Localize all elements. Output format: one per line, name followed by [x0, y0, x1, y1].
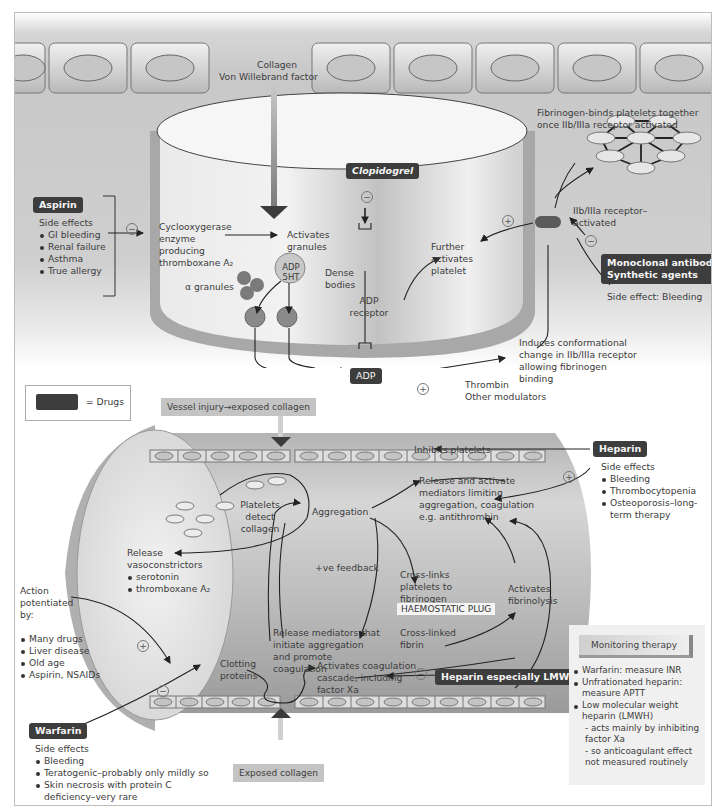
- activates-fibrinolysis-label: Activates fibrinolysis: [508, 583, 568, 607]
- warfarin-side-effects-list: Bleeding Teratogenic–probably only mildl…: [35, 755, 215, 803]
- exposed-collagen-label: Exposed collagen: [233, 764, 324, 782]
- drug-heparin[interactable]: Heparin: [593, 441, 647, 457]
- inhibits-platelets-label: Inhibits platelets: [414, 444, 490, 456]
- release-vasoconstrictors-label: Release vasoconstrictors: [127, 547, 217, 571]
- haemostatic-plug-label: HAEMOSTATIC PLUG: [397, 603, 495, 615]
- side-effect-item: Bleeding: [35, 755, 215, 767]
- side-effect-item: Thrombocytopenia: [601, 485, 701, 497]
- side-effect-item: Teratogenic–probably only mildly so: [35, 767, 215, 779]
- crosslinked-fibrin-label: Cross-linked fibrin: [400, 627, 460, 651]
- aggregation-label: Aggregation: [312, 506, 368, 518]
- monitoring-item: Warfarin: measure INR: [573, 665, 701, 677]
- ve-feedback-label: +ve feedback: [315, 562, 379, 574]
- vasoconstrictor-item: serotonin: [127, 571, 210, 583]
- monitoring-therapy-box: Monitoring therapy Warfarin: measure INR…: [569, 625, 705, 785]
- vasoconstrictor-item: thromboxane A₂: [127, 583, 210, 595]
- activate-symbol: +: [137, 640, 149, 652]
- clotting-proteins-label: Clotting proteins: [220, 658, 260, 682]
- activates-cascade-label: Activates coagulation cascade, including…: [317, 660, 422, 696]
- drug-warfarin[interactable]: Warfarin: [29, 723, 87, 739]
- drug-heparin-lmwh[interactable]: Heparin especially LMWH: [435, 669, 583, 685]
- side-effect-item: Osteoporosis–long-term therapy: [601, 497, 701, 521]
- potentiator-item: Old age: [20, 657, 100, 669]
- vasoconstrictor-list: serotonin thromboxane A₂: [127, 571, 210, 595]
- diagram-frame: Collagen Von Willebrand factor: [14, 12, 712, 806]
- crosslinks-label: Cross-links platelets to fibrinogen: [400, 569, 490, 605]
- inhibit-symbol: −: [415, 668, 427, 680]
- side-effect-item: Bleeding: [601, 473, 701, 485]
- potentiators-list: Many drugs Liver disease Old age Aspirin…: [20, 633, 100, 681]
- monitoring-subitem: - so anticoagulant effect not measured r…: [573, 746, 701, 769]
- vessel-injury-label: Vessel injury→exposed collagen: [161, 398, 316, 416]
- side-effect-item: Skin necrosis with protein C deficiency–…: [35, 779, 215, 803]
- monitoring-list: Warfarin: measure INR Unfrationated hepa…: [573, 665, 701, 769]
- monitoring-title: Monitoring therapy: [579, 635, 693, 658]
- potentiator-item: Liver disease: [20, 645, 100, 657]
- heparin-side-effects-list: Bleeding Thrombocytopenia Osteoporosis–l…: [601, 473, 701, 521]
- action-potentiated-label: Action potentiated by:: [20, 585, 64, 621]
- warfarin-side-effects-title: Side effects: [35, 743, 89, 755]
- activate-symbol: +: [563, 471, 575, 483]
- monitoring-item: Low molecular weight heparin (LMWH): [573, 700, 701, 723]
- potentiator-item: Many drugs: [20, 633, 100, 645]
- release-activate-label: Release and activate mediators limiting …: [419, 475, 544, 523]
- monitoring-subitem: - acts mainly by inhibiting factor Xa: [573, 723, 701, 746]
- monitoring-item: Unfrationated heparin: measure APTT: [573, 677, 701, 700]
- potentiator-item: Aspirin, NSAIDs: [20, 669, 100, 681]
- platelets-detect-label: Platelets detect collagen: [235, 499, 285, 535]
- inhibit-symbol: −: [157, 685, 169, 697]
- heparin-side-effects-title: Side effects: [601, 461, 655, 473]
